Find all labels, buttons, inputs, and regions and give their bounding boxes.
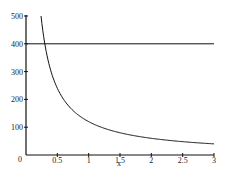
x-tick-label: 2.5 [178, 156, 188, 165]
x-tick-label: 0.5 [52, 156, 62, 165]
y-tick-label: 200 [11, 95, 23, 104]
x-axis-label: x [117, 159, 121, 168]
series-curve [41, 16, 214, 144]
origin-label: 0 [18, 155, 22, 164]
chart: 100200300400500 0.511.522.53 0 x [0, 0, 225, 177]
axes [26, 15, 214, 155]
x-tick-label: 2 [149, 156, 153, 165]
y-tick-label: 400 [11, 40, 23, 49]
x-tick-label: 1 [87, 156, 91, 165]
y-tick-label: 500 [11, 12, 23, 21]
y-tick-label: 300 [11, 68, 23, 77]
x-tick-label: 3 [212, 156, 216, 165]
y-tick-label: 100 [11, 123, 23, 132]
